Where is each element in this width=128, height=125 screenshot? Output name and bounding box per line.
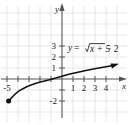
x-tick-label--5: -5 (3, 83, 11, 93)
y-axis-name: y (54, 4, 59, 14)
curve-path (10, 65, 114, 100)
equation-trailing-term: − 2 (106, 44, 119, 54)
x-axis (1, 76, 127, 81)
x-tick-label-4: 4 (104, 83, 109, 93)
graph-figure: -5 1 2 3 4 3 2 1 -2 y x y = x + 5 − 2 (0, 0, 128, 125)
y-tick-label--2: -2 (50, 96, 58, 106)
coordinate-plane: -5 1 2 3 4 3 2 1 -2 y x y = x + 5 − 2 (0, 0, 128, 125)
y-tick-label-3: 3 (52, 41, 57, 51)
equation-equals-sign: = (74, 43, 79, 53)
equation-label: y = x + 5 − 2 (67, 43, 119, 54)
curve-series (6, 64, 119, 104)
y-tick-label-2: 2 (52, 52, 57, 62)
x-axis-name: x (121, 81, 126, 91)
x-tick-label-1: 1 (71, 83, 76, 93)
y-tick-label-1: 1 (52, 63, 57, 73)
curve-start-point (6, 99, 11, 104)
equation-lhs: y (67, 43, 73, 53)
x-tick-label-3: 3 (93, 83, 98, 93)
grid-lines (1, 6, 127, 122)
x-tick-label-2: 2 (82, 83, 87, 93)
